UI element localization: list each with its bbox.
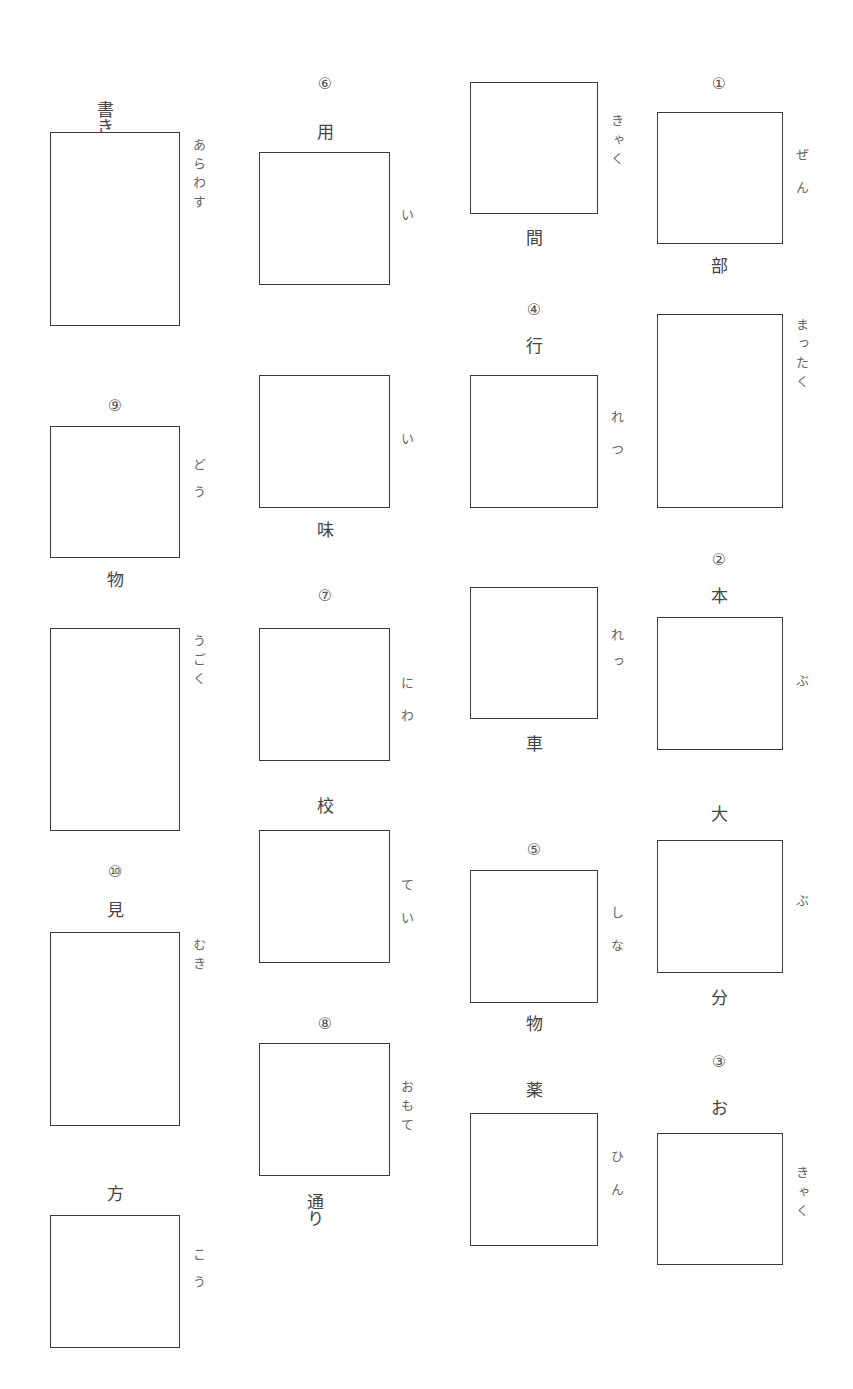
answer-box-omote[interactable] (259, 1043, 390, 1176)
reading-omote: おもて (400, 1080, 413, 1137)
reading-kyakuma: きゃく (610, 114, 623, 171)
item-number-2: ② (699, 552, 739, 568)
reading-imi: い (400, 432, 413, 451)
item-number-8: ⑧ (305, 1016, 345, 1032)
reading-honbu: ぶ (795, 674, 808, 693)
answer-box-kyakuma[interactable] (470, 82, 598, 214)
above-label: 薬 (514, 1082, 554, 1099)
below-label: 車 (514, 736, 554, 753)
answer-box-niwa[interactable] (259, 628, 390, 761)
above-label: 本 (699, 588, 739, 605)
above-label: お (699, 1100, 739, 1117)
answer-box-kakiarawasu[interactable] (50, 132, 180, 326)
below-label: 味 (305, 522, 345, 539)
reading-ressha: れっ (610, 628, 623, 682)
reading-mattaku: まったく (795, 318, 808, 394)
below-label: 間 (514, 230, 554, 247)
below-label: 部 (699, 258, 739, 275)
item-number-3: ③ (699, 1054, 739, 1070)
item-number-4: ④ (514, 302, 554, 318)
reading-kakiarawasu: あらわす (192, 138, 205, 214)
answer-box-muki[interactable] (50, 932, 180, 1126)
above-label: 大 (699, 806, 739, 823)
item-number-6: ⑥ (305, 76, 345, 92)
answer-box-gyouretsu[interactable] (470, 375, 598, 508)
reading-okyaku: きゃく (795, 1166, 808, 1223)
reading-ugoku: うごく (192, 634, 205, 691)
answer-box-ressha[interactable] (470, 587, 598, 719)
reading-doubutsu: どう (192, 458, 205, 512)
above-label: 用 (305, 124, 345, 141)
reading-niwa: にわ (400, 676, 413, 742)
reading-youi: い (400, 208, 413, 227)
reading-koutei: てい (400, 878, 413, 944)
answer-box-houkou[interactable] (50, 1215, 180, 1348)
reading-daibubun: ぶ (795, 894, 808, 913)
item-number-5: ⑤ (514, 842, 554, 858)
below-label: 分 (699, 990, 739, 1007)
below-label: 物 (514, 1016, 554, 1033)
answer-box-honbu[interactable] (657, 617, 783, 750)
reading-houkou: こう (192, 1248, 205, 1302)
reading-shinamono: しな (610, 906, 623, 972)
answer-box-imi[interactable] (259, 375, 390, 508)
above-label: 方 (95, 1186, 135, 1203)
above-label: 校 (305, 798, 345, 815)
item-number-1: ① (699, 76, 739, 92)
above-label: 見 (95, 902, 135, 919)
reading-zenbu: ぜん (795, 148, 808, 214)
answer-box-zenbu[interactable] (657, 112, 783, 244)
answer-box-ugoku[interactable] (50, 628, 180, 831)
answer-box-youi[interactable] (259, 152, 390, 285)
above-label: 行 (514, 338, 554, 355)
reading-gyouretsu: れつ (610, 410, 623, 476)
answer-box-yakuhin[interactable] (470, 1113, 598, 1246)
item-number-9: ⑨ (95, 398, 135, 414)
item-number-10: ⑩ (95, 864, 135, 880)
reading-muki: むき (192, 938, 205, 976)
reading-yakuhin: ひん (610, 1150, 623, 1216)
below-label: 物 (95, 572, 135, 589)
answer-box-mattaku[interactable] (657, 314, 783, 508)
answer-box-okyaku[interactable] (657, 1133, 783, 1265)
answer-box-doubutsu[interactable] (50, 426, 180, 558)
answer-box-shinamono[interactable] (470, 870, 598, 1003)
below-label: 通り (305, 1188, 322, 1232)
answer-box-koutei[interactable] (259, 830, 390, 963)
item-number-7: ⑦ (305, 588, 345, 604)
answer-box-daibubun[interactable] (657, 840, 783, 973)
